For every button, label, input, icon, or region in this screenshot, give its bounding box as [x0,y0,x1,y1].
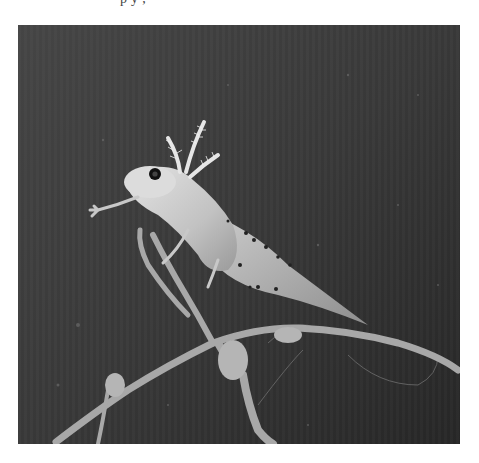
photo-canvas [18,25,460,444]
cropped-caption-text: p y , [120,0,146,7]
salamander-photo [18,25,460,444]
